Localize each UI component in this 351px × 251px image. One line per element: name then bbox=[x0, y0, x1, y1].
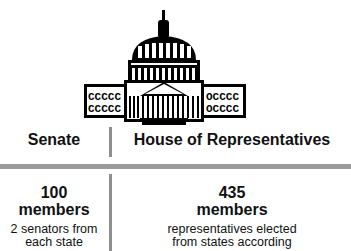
house-column: 435 members representatives elected from… bbox=[113, 184, 351, 249]
house-unit: members bbox=[113, 201, 351, 219]
house-count: 435 bbox=[113, 184, 351, 201]
header-divider bbox=[0, 164, 351, 169]
svg-text:OCCCC: OCCCC bbox=[206, 91, 239, 103]
senate-count: 100 bbox=[0, 184, 108, 201]
senate-description: 2 senators from each state bbox=[0, 223, 108, 249]
senate-heading: Senate bbox=[0, 131, 108, 149]
senate-column: 100 members 2 senators from each state bbox=[0, 184, 108, 249]
svg-text:CCCCC: CCCCC bbox=[88, 103, 121, 115]
column-divider-top bbox=[109, 127, 112, 157]
column-divider-bottom bbox=[109, 174, 112, 251]
house-heading: House of Representatives bbox=[113, 131, 351, 149]
svg-text:CCCCC: CCCCC bbox=[88, 91, 121, 103]
svg-text:OCCCC: OCCCC bbox=[206, 103, 239, 115]
senate-unit: members bbox=[0, 201, 108, 219]
house-description: representatives elected from states acco… bbox=[113, 223, 351, 249]
capitol-building-icon: CCCCCCCCCC OCCCCOCCCC bbox=[82, 8, 248, 126]
